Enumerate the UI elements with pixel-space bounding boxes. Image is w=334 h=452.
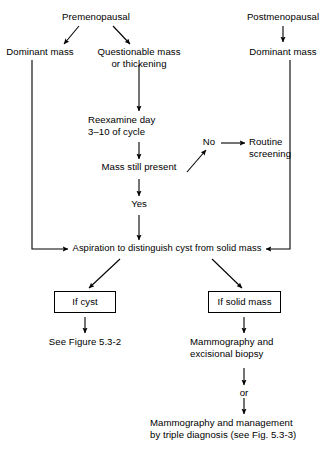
node-mammography-excisional: Mammography and excisional biopsy (190, 336, 298, 361)
node-questionable-mass: Questionable mass or thickening (86, 46, 192, 71)
node-premenopausal: Premenopausal (46, 11, 146, 23)
node-if-cyst-label: If cyst (72, 296, 97, 308)
node-postmenopausal: Postmenopausal (233, 11, 333, 23)
node-dominant-mass-right: Dominant mass (243, 46, 323, 58)
node-dominant-mass-left: Dominant mass (0, 46, 80, 58)
edge-premenopausal-to-questionable-mass (113, 26, 130, 44)
node-reexamine-day: Reexamine day 3–10 of cycle (88, 114, 192, 139)
flowchart-canvas: Premenopausal Postmenopausal Dominant ma… (0, 0, 334, 452)
node-see-figure: See Figure 5.3-2 (29, 336, 141, 348)
node-if-cyst: If cyst (54, 291, 116, 313)
edge-aspiration-to-if-cyst (89, 259, 120, 288)
edge-label-yes: Yes (124, 198, 154, 210)
edge-label-or: or (230, 387, 258, 399)
edge-label-no: No (197, 136, 221, 148)
node-if-solid-mass: If solid mass (208, 291, 281, 313)
node-aspiration: Aspiration to distinguish cyst from soli… (64, 242, 270, 254)
edge-aspiration-to-if-solid-mass (212, 259, 242, 288)
node-mammography-triple-diagnosis: Mammography and management by triple dia… (150, 417, 334, 442)
node-mass-still-present: Mass still present (82, 161, 196, 173)
node-if-solid-mass-label: If solid mass (218, 296, 272, 308)
edge-premenopausal-to-dominant-mass (64, 26, 79, 44)
edge-dominant-mass-left-to-aspiration (32, 60, 68, 249)
node-routine-screening: Routine screening (249, 136, 323, 161)
